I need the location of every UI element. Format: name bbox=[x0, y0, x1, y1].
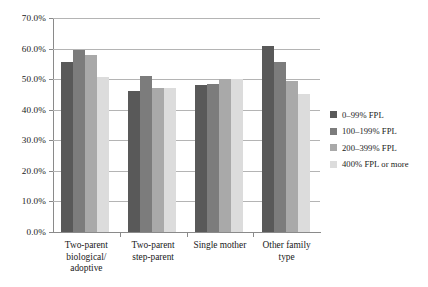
legend-swatch-icon bbox=[330, 161, 337, 168]
plot-area: 0.0%10.0%20.0%30.0%40.0%50.0%60.0%70.0% bbox=[53, 18, 320, 232]
bar-group bbox=[195, 18, 243, 232]
legend-label: 0–99% FPL bbox=[342, 110, 384, 120]
bar bbox=[262, 46, 274, 232]
y-tick-mark bbox=[49, 171, 53, 172]
category-label: Two-parentbiological/adoptive bbox=[53, 240, 120, 275]
bar bbox=[61, 62, 73, 232]
legend-item: 0–99% FPL bbox=[330, 110, 426, 119]
y-tick-mark bbox=[49, 49, 53, 50]
bar bbox=[231, 79, 243, 232]
bar bbox=[128, 91, 140, 232]
legend-item: 100–199% FPL bbox=[330, 127, 426, 136]
x-tick-mark bbox=[120, 232, 121, 237]
category-label-line: Single mother bbox=[187, 240, 254, 252]
bar bbox=[274, 62, 286, 232]
category-label-line: Other family bbox=[253, 240, 320, 252]
legend-label: 100–199% FPL bbox=[342, 126, 397, 136]
legend-swatch-icon bbox=[330, 111, 337, 118]
legend-swatch-icon bbox=[330, 144, 337, 151]
y-tick-label: 20.0% bbox=[22, 166, 46, 176]
bar bbox=[286, 81, 298, 232]
y-tick-mark bbox=[49, 140, 53, 141]
bar bbox=[164, 88, 176, 232]
y-tick-label: 0.0% bbox=[26, 227, 46, 237]
bar bbox=[85, 55, 97, 232]
y-tick-mark bbox=[49, 79, 53, 80]
y-tick-label: 40.0% bbox=[22, 105, 46, 115]
category-label: Two-parentstep-parent bbox=[120, 240, 187, 263]
category-label-line: step-parent bbox=[120, 252, 187, 264]
bar bbox=[207, 84, 219, 232]
y-tick-label: 50.0% bbox=[22, 74, 46, 84]
legend-swatch-icon bbox=[330, 128, 337, 135]
bar bbox=[195, 85, 207, 232]
category-label-line: adoptive bbox=[53, 263, 120, 275]
y-tick-label: 60.0% bbox=[22, 44, 46, 54]
bar bbox=[97, 77, 109, 232]
category-label-line: biological/ bbox=[53, 252, 120, 264]
bar-group bbox=[61, 18, 109, 232]
x-tick-mark bbox=[187, 232, 188, 237]
bar-group bbox=[262, 18, 310, 232]
bar bbox=[298, 94, 310, 232]
legend-label: 400% FPL or more bbox=[342, 159, 409, 169]
y-tick-mark bbox=[49, 110, 53, 111]
category-label-line: Two-parent bbox=[120, 240, 187, 252]
bar-chart: 0.0%10.0%20.0%30.0%40.0%50.0%60.0%70.0% … bbox=[0, 0, 428, 287]
y-tick-label: 10.0% bbox=[22, 196, 46, 206]
bar bbox=[140, 76, 152, 232]
y-tick-label: 30.0% bbox=[22, 135, 46, 145]
y-tick-label: 70.0% bbox=[22, 13, 46, 23]
y-tick-mark bbox=[49, 18, 53, 19]
bar-group bbox=[128, 18, 176, 232]
bar bbox=[219, 79, 231, 232]
legend-item: 400% FPL or more bbox=[330, 160, 426, 169]
y-tick-mark bbox=[49, 201, 53, 202]
category-label: Single mother bbox=[187, 240, 254, 252]
legend-item: 200–399% FPL bbox=[330, 143, 426, 152]
category-label: Other familytype bbox=[253, 240, 320, 263]
legend-label: 200–399% FPL bbox=[342, 143, 397, 153]
category-label-line: Two-parent bbox=[53, 240, 120, 252]
x-tick-mark bbox=[253, 232, 254, 237]
category-label-line: type bbox=[253, 252, 320, 264]
chart-legend: 0–99% FPL100–199% FPL200–399% FPL400% FP… bbox=[330, 110, 426, 176]
y-tick-mark bbox=[49, 232, 53, 233]
bar bbox=[73, 50, 85, 232]
bar bbox=[152, 88, 164, 232]
